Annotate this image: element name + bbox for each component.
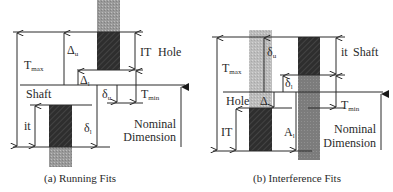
hole-label: Hole (226, 94, 249, 108)
t-max-label: Tmax (222, 61, 242, 76)
shaft-label: Shaft (26, 87, 52, 101)
shaft-gray-block (298, 75, 320, 160)
t-min-label: Tmin (141, 87, 160, 102)
it-hole-label: IT (140, 45, 152, 59)
small-delta-u-label: δu (102, 87, 112, 102)
small-delta-l-label: δl (84, 121, 92, 136)
caption-running-fits: (a) Running Fits (44, 172, 116, 185)
it-shaft-label: it (341, 45, 348, 59)
it-hole-label: IT (221, 125, 233, 139)
dimension-label: Dimension (323, 136, 376, 150)
shaft-label: Shaft (353, 45, 379, 59)
dimension-label: Dimension (123, 130, 176, 144)
hole-label: Hole (158, 45, 181, 59)
panel-interference-fits: Tmax δu it Shaft δl Hole Δ Tmin IT Al No… (212, 30, 383, 185)
delta-label: Δ (260, 94, 268, 108)
hole-tolerance-zone (97, 32, 120, 70)
nominal-label: Nominal (134, 117, 177, 131)
t-max-label: Tmax (24, 58, 44, 73)
tolerance-fits-figure: Tmax Δu Δl IT Hole Shaft δu Tmin it δl N… (0, 0, 393, 192)
nominal-label: Nominal (334, 122, 377, 136)
it-shaft-label: it (24, 119, 31, 133)
t-min-label: Tmin (341, 98, 360, 113)
panel-running-fits: Tmax Δu Δl IT Hole Shaft δu Tmin it δl N… (13, 0, 185, 185)
shaft-gray-block (49, 147, 72, 167)
small-delta-u-label: δu (267, 45, 277, 60)
hole-clearance-gray-block (97, 0, 120, 32)
delta-u-label: Δu (67, 43, 79, 58)
caption-interference-fits: (b) Interference Fits (253, 172, 341, 185)
hole-tolerance-zone (249, 108, 272, 151)
shaft-tolerance-zone (49, 105, 72, 147)
a-l-label: Al (284, 125, 295, 140)
shaft-tolerance-zone (298, 37, 320, 75)
delta-l-label: Δl (80, 73, 90, 88)
small-delta-l-label: δl (285, 76, 293, 91)
